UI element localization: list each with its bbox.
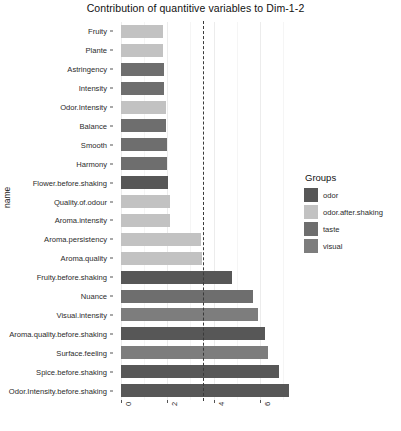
legend-label: taste (323, 225, 339, 234)
y-tick-label: Aroma.quality.before.shaking (9, 329, 107, 338)
y-tick-label: Harmony (76, 159, 107, 168)
bar (121, 25, 163, 38)
bar (121, 63, 164, 76)
x-tick-label: 0 (124, 402, 133, 406)
legend-label: visual (323, 242, 342, 251)
x-axis: 0246 (121, 400, 297, 431)
y-tick-mark (110, 296, 113, 297)
bar (121, 252, 202, 265)
bar (121, 101, 166, 114)
bar (121, 214, 170, 227)
y-tick-label: Odor.Intensity (60, 103, 107, 112)
legend-label: odor (323, 191, 338, 200)
y-tick-label: Smooth (81, 140, 107, 149)
bar (121, 176, 168, 189)
x-tick-mark (121, 400, 122, 403)
chart-title-text: Contribution of quantitive variables to … (87, 2, 305, 14)
y-tick-mark (110, 390, 113, 391)
bar (121, 327, 265, 340)
legend-item: visual (304, 238, 400, 254)
y-tick-label: Flower.before.shaking (33, 178, 107, 187)
legend-swatch (304, 205, 318, 219)
y-tick-mark (110, 107, 113, 108)
y-tick-mark (110, 239, 113, 240)
bar (121, 365, 279, 378)
legend-title: Groups (305, 172, 400, 183)
y-tick-label: Plante (85, 46, 107, 55)
y-tick-label: Astringency (67, 65, 107, 74)
chart-root: Contribution of quantitive variables to … (0, 0, 401, 431)
y-tick-label: Aroma.intensity (55, 216, 107, 225)
y-tick-mark (110, 125, 113, 126)
y-tick-label: Aroma.persistency (44, 235, 107, 244)
x-tick-mark (214, 400, 215, 403)
y-tick-mark (110, 352, 113, 353)
bar (121, 346, 268, 359)
bar (121, 195, 170, 208)
reference-line (203, 21, 204, 401)
y-tick-mark (110, 277, 113, 278)
y-tick-mark (110, 182, 113, 183)
y-tick-mark (110, 69, 113, 70)
y-tick-mark (110, 88, 113, 89)
bar (121, 119, 166, 132)
y-tick-label: Balance (80, 121, 107, 130)
y-tick-mark (110, 144, 113, 145)
y-tick-label: Odor.Intensity.before.shaking (9, 386, 107, 395)
legend-label: odor.after.shaking (323, 208, 383, 217)
legend-swatch (304, 222, 318, 236)
legend: Groups odorodor.after.shakingtastevisual (304, 172, 400, 255)
x-tick-mark (260, 400, 261, 403)
y-tick-label: Nuance (81, 292, 107, 301)
bar (121, 271, 232, 284)
y-tick-mark (110, 371, 113, 372)
y-tick-label: Fruity (88, 27, 107, 36)
bar-series (121, 22, 297, 400)
plot-panel (121, 22, 297, 400)
y-tick-label: Fruity.before.shaking (37, 273, 107, 282)
legend-item: odor.after.shaking (304, 204, 400, 220)
bar (121, 308, 258, 321)
x-tick-mark (167, 400, 168, 403)
y-tick-mark (110, 333, 113, 334)
legend-swatch (304, 188, 318, 202)
legend-item: taste (304, 221, 400, 237)
y-tick-label: Surface.feeling (56, 348, 107, 357)
y-tick-mark (110, 201, 113, 202)
bar (121, 384, 289, 397)
bar (121, 82, 164, 95)
y-tick-mark (110, 220, 113, 221)
bar (121, 138, 167, 151)
y-tick-mark (110, 258, 113, 259)
bar (121, 290, 253, 303)
x-tick-label: 4 (217, 402, 226, 406)
y-tick-mark (110, 31, 113, 32)
x-tick-label: 2 (170, 402, 179, 406)
chart-title: Contribution of quantitive variables to … (0, 2, 401, 14)
y-tick-label: Visual.intensity (56, 310, 107, 319)
y-tick-mark (110, 163, 113, 164)
legend-items: odorodor.after.shakingtastevisual (304, 187, 400, 254)
bar (121, 44, 163, 57)
y-tick-label: Quality.of.odour (54, 197, 107, 206)
y-tick-label: Aroma.quality (61, 254, 107, 263)
y-tick-label: Spice.before.shaking (36, 367, 107, 376)
y-tick-mark (110, 50, 113, 51)
bar (121, 233, 201, 246)
x-tick-label: 6 (263, 402, 272, 406)
legend-swatch (304, 239, 318, 253)
legend-item: odor (304, 187, 400, 203)
y-tick-label: Intensity (79, 84, 107, 93)
y-axis-labels: FruityPlanteAstringencyIntensityOdor.Int… (0, 22, 115, 400)
bar (121, 157, 167, 170)
y-tick-mark (110, 314, 113, 315)
